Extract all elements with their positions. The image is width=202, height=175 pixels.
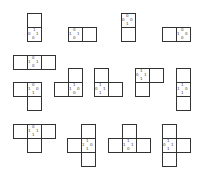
cell-mark: 1 xyxy=(131,143,134,147)
grid-cell xyxy=(149,68,164,83)
grid-cell xyxy=(136,138,151,153)
grid-cell xyxy=(162,124,177,139)
cell-mark: 1 xyxy=(32,133,35,137)
cell-mark: 0 xyxy=(127,147,130,151)
cell-mark: 1 xyxy=(99,83,102,87)
cell-mark: 1 xyxy=(126,22,129,26)
grid-cell xyxy=(108,82,123,97)
grid-cell xyxy=(13,124,28,139)
cell-mark: 1 xyxy=(77,32,80,36)
cell-mark: 0 xyxy=(122,18,125,22)
cell-mark: 1 xyxy=(103,87,106,91)
grid-cell xyxy=(67,138,82,153)
cell-mark: 1 xyxy=(82,143,85,147)
cell-mark: 0 xyxy=(36,87,39,91)
cell-mark: 1 xyxy=(86,139,89,143)
cell-mark: 1 xyxy=(69,32,72,36)
cell-mark: 1 xyxy=(123,143,126,147)
cell-mark: 0 xyxy=(95,87,98,91)
grid-cell xyxy=(176,96,191,111)
cell-mark: 0 xyxy=(32,125,35,129)
cell-mark: 0 xyxy=(90,143,93,147)
cell-mark: 0 xyxy=(32,83,35,87)
cell-mark: 0 xyxy=(32,56,35,60)
grid-cell xyxy=(81,124,96,139)
cell-mark: 1 xyxy=(28,129,31,133)
cell-mark: 1 xyxy=(144,73,147,77)
grid-cell xyxy=(176,68,191,83)
cell-mark: 1 xyxy=(36,129,39,133)
grid-cell xyxy=(27,96,42,111)
grid-cell xyxy=(27,138,42,153)
grid-cell xyxy=(13,82,28,97)
cell-mark: 0 xyxy=(73,91,76,95)
grid-cell xyxy=(122,124,137,139)
cell-mark: 0 xyxy=(77,87,80,91)
cell-mark: 0 xyxy=(136,73,139,77)
cell-mark: 0 xyxy=(185,32,188,36)
cell-mark: 1 xyxy=(177,32,180,36)
grid-cell xyxy=(27,13,42,28)
cell-mark: 0 xyxy=(28,32,31,36)
cell-mark: 0 xyxy=(181,36,184,40)
grid-cell xyxy=(68,68,83,83)
cell-mark: 0 xyxy=(181,28,184,32)
grid-cell xyxy=(41,124,56,139)
cell-mark: 1 xyxy=(167,147,170,151)
cell-mark: 1 xyxy=(36,60,39,64)
grid-cell xyxy=(121,27,136,42)
cell-mark: 0 xyxy=(163,143,166,147)
cell-mark: 1 xyxy=(99,91,102,95)
cell-mark: 1 xyxy=(28,60,31,64)
grid-cell xyxy=(135,82,150,97)
cell-mark: 0 xyxy=(185,87,188,91)
cell-mark: 0 xyxy=(130,18,133,22)
grid-cell xyxy=(82,27,97,42)
cell-mark: 1 xyxy=(140,69,143,73)
cell-mark: 1 xyxy=(181,83,184,87)
cell-mark: 0 xyxy=(73,28,76,32)
cell-mark: 1 xyxy=(167,139,170,143)
grid-cell xyxy=(108,138,123,153)
cell-mark: 0 xyxy=(32,36,35,40)
cell-mark: 0 xyxy=(126,14,129,18)
cell-mark: 1 xyxy=(36,32,39,36)
grid-cell xyxy=(162,27,177,42)
cell-mark: 1 xyxy=(32,91,35,95)
cell-mark: 1 xyxy=(177,87,180,91)
cell-mark: 1 xyxy=(171,143,174,147)
grid-cell xyxy=(41,55,56,70)
cell-mark: 1 xyxy=(73,83,76,87)
cell-mark: 1 xyxy=(127,139,130,143)
grid-cell xyxy=(81,152,96,167)
grid-cell xyxy=(94,68,109,83)
cell-mark: 1 xyxy=(86,147,89,151)
cell-mark: 0 xyxy=(73,36,76,40)
grid-cell xyxy=(13,55,28,70)
cell-mark: 1 xyxy=(181,91,184,95)
grid-cell xyxy=(176,138,191,153)
cell-mark: 1 xyxy=(140,77,143,81)
grid-cell xyxy=(162,152,177,167)
cell-mark: 1 xyxy=(28,87,31,91)
cell-mark: 1 xyxy=(69,87,72,91)
cell-mark: 0 xyxy=(32,64,35,68)
grid-cell xyxy=(54,82,69,97)
